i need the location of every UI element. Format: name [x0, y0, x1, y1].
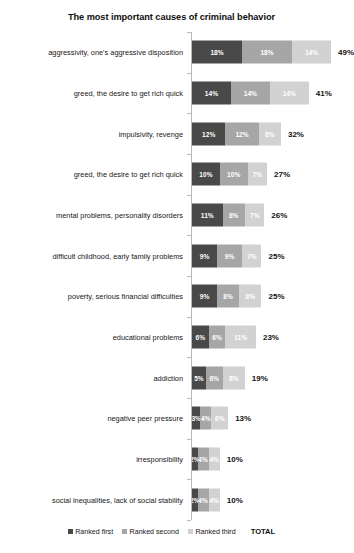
bar-segment: 6% [209, 325, 226, 348]
bar-segment: 5% [192, 366, 206, 389]
bar-segment: 6% [206, 366, 223, 389]
total-label: 25% [269, 251, 285, 260]
bar-segment: 4% [198, 488, 209, 511]
chart-row: aggressivity, one's aggressive dispositi… [0, 32, 343, 73]
category-label: mental problems, personality disorders [0, 210, 183, 219]
total-label: 26% [271, 210, 287, 219]
bar-segment: 4% [209, 488, 220, 511]
axis-tick [187, 195, 191, 196]
stacked-bar: 9%9%7% [192, 244, 261, 267]
stacked-bar: 3%4%6% [192, 407, 228, 430]
total-label: 41% [316, 88, 332, 97]
total-label: 49% [338, 48, 354, 57]
bar-segment: 7% [245, 203, 264, 226]
axis-tick [187, 398, 191, 399]
axis-tick [187, 276, 191, 277]
bar-segment: 8% [259, 122, 281, 145]
bar-segment: 9% [192, 285, 217, 308]
bar-segment: 14% [292, 41, 331, 64]
chart-row: social inequalities, lack of social stab… [0, 479, 343, 520]
chart-row: poverty, serious financial difficulties9… [0, 276, 343, 317]
bar-segment: 7% [242, 244, 261, 267]
total-label: 27% [274, 170, 290, 179]
bar-segment: 8% [223, 366, 245, 389]
stacked-bar: 12%12%8% [192, 122, 281, 145]
total-label: 19% [252, 373, 268, 382]
legend-label: Ranked third [195, 528, 235, 536]
category-label: poverty, serious financial difficulties [0, 292, 183, 301]
legend-item-ranked-second: Ranked second [122, 528, 179, 536]
legend-swatch-icon [188, 529, 193, 534]
axis-tick [187, 357, 191, 358]
bar-segment: 7% [248, 163, 267, 186]
axis-tick [187, 439, 191, 440]
bar-segment: 12% [192, 122, 225, 145]
legend-swatch-icon [122, 529, 127, 534]
stacked-bar: 9%8%8% [192, 285, 261, 308]
total-label: 32% [288, 129, 304, 138]
legend-label: Ranked second [130, 528, 179, 536]
stacked-bar: 14%14%14% [192, 81, 309, 104]
bar-segment: 4% [198, 447, 209, 470]
category-label: greed, the desire to get rich quick [0, 88, 183, 97]
axis-tick [187, 113, 191, 114]
category-label: irresponsibility [0, 454, 183, 463]
bar-segment: 12% [225, 122, 258, 145]
bar-segment: 4% [200, 407, 211, 430]
chart-row: addiction5%6%8%19% [0, 357, 343, 398]
category-label: negative peer pressure [0, 414, 183, 423]
chart-title: The most important causes of criminal be… [0, 12, 343, 22]
stacked-bar: 5%6%8% [192, 366, 245, 389]
total-label: 25% [269, 292, 285, 301]
total-label: 10% [227, 495, 243, 504]
chart-row: greed, the desire to get rich quick10%10… [0, 154, 343, 195]
legend-swatch-icon [68, 529, 73, 534]
chart-row: irresponsibility2%4%4%10% [0, 439, 343, 480]
bar-segment: 18% [192, 41, 242, 64]
category-label: educational problems [0, 332, 183, 341]
stacked-bar: 2%4%4% [192, 447, 220, 470]
chart-row: mental problems, personality disorders11… [0, 195, 343, 236]
chart-row: difficult childhood, early family proble… [0, 235, 343, 276]
axis-tick [187, 317, 191, 318]
stacked-bar: 11%8%7% [192, 203, 264, 226]
stacked-bar: 2%4%4% [192, 488, 220, 511]
bar-segment: 14% [192, 81, 231, 104]
bar-segment: 8% [217, 285, 239, 308]
total-label: 23% [263, 332, 279, 341]
category-label: impulsivity, revenge [0, 129, 183, 138]
bar-segment: 8% [239, 285, 261, 308]
total-label: 13% [235, 414, 251, 423]
stacked-bar: 18%18%14% [192, 41, 331, 64]
stacked-bar: 10%10%7% [192, 163, 267, 186]
chart-row: negative peer pressure3%4%6%13% [0, 398, 343, 439]
category-label: aggressivity, one's aggressive dispositi… [0, 48, 183, 57]
plot-area: aggressivity, one's aggressive dispositi… [0, 32, 343, 520]
axis-tick [187, 32, 191, 33]
legend-item-ranked-first: Ranked first [68, 528, 113, 536]
bar-segment: 18% [242, 41, 292, 64]
bar-segment: 8% [223, 203, 245, 226]
bar-segment: 4% [209, 447, 220, 470]
bar-segment: 9% [192, 244, 217, 267]
bar-segment: 10% [220, 163, 248, 186]
chart-row: greed, the desire to get rich quick14%14… [0, 73, 343, 114]
category-label: greed, the desire to get rich quick [0, 170, 183, 179]
bar-segment: 3% [192, 407, 200, 430]
legend-total-label: TOTAL [251, 527, 276, 536]
legend-item-ranked-third: Ranked third [188, 528, 236, 536]
stacked-bar: 6%6%11% [192, 325, 256, 348]
chart-legend: Ranked first Ranked second Ranked third … [0, 527, 343, 536]
category-label: social inequalities, lack of social stab… [0, 495, 183, 504]
bar-segment: 9% [217, 244, 242, 267]
chart-row: educational problems6%6%11%23% [0, 317, 343, 358]
axis-tick [187, 235, 191, 236]
bar-segment: 14% [231, 81, 270, 104]
chart-row: impulsivity, revenge12%12%8%32% [0, 113, 343, 154]
total-label: 10% [227, 454, 243, 463]
bar-segment: 14% [270, 81, 309, 104]
legend-label: Ranked first [75, 528, 113, 536]
axis-tick [187, 520, 191, 521]
bar-segment: 11% [225, 325, 256, 348]
